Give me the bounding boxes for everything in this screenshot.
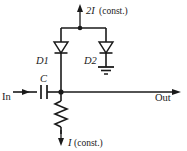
diode2-label: D2: [83, 55, 98, 66]
diode-d2: [99, 42, 113, 67]
resistor: [55, 92, 67, 134]
capacitor-label: C: [40, 73, 48, 84]
top-source-current-label: 2I: [86, 5, 95, 16]
top-rail: [61, 26, 106, 42]
capacitor-c: [41, 85, 61, 99]
ground-icon: [98, 67, 114, 74]
input-terminal: [13, 89, 37, 95]
resistor-zigzag: [55, 101, 67, 127]
current-source-top: [77, 4, 83, 27]
current-source-bottom: [58, 130, 64, 146]
circuit-schematic: 2I (const.) D1 D2 C In Out I (const.): [0, 0, 187, 151]
d1-triangle: [54, 42, 68, 53]
input-label: In: [2, 91, 11, 102]
diode1-label: D1: [35, 55, 49, 66]
bottom-source-qualifier-label: (const.): [74, 138, 103, 149]
up-arrow-icon: [77, 4, 83, 12]
top-junction-node: [78, 26, 83, 31]
diode-d1: [54, 42, 68, 92]
output-label: Out: [155, 92, 171, 103]
output-arrow-icon: [172, 89, 181, 95]
down-arrow-icon: [58, 138, 64, 146]
circuit-diagram-canvas: 2I (const.) D1 D2 C In Out I (const.): [0, 0, 187, 151]
input-arrow-icon: [22, 89, 30, 95]
top-source-qualifier-label: (const.): [99, 6, 128, 17]
bottom-source-current-label: I: [67, 137, 72, 148]
d2-triangle: [99, 42, 113, 53]
